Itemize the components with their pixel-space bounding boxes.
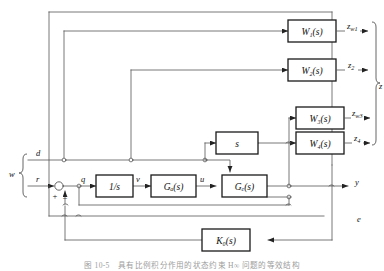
label-q: q [81, 174, 86, 184]
label-z-2: z2 [347, 60, 354, 71]
label-minus: − [62, 193, 68, 203]
block-ge-label: Gₑ(s) [235, 182, 254, 193]
label-r: r [36, 174, 40, 184]
block-integrator-label: 1/s [109, 182, 120, 192]
label-z-w1: zw1 [346, 21, 358, 32]
figure-container: W₁(s) W₂(s) W₃(s) W₄(s) s 1/s Gₐ(s) Gₑ(s… [0, 0, 384, 271]
block-w2-label: W₂(s) [301, 66, 322, 77]
label-v: v [136, 174, 140, 184]
summing-junction [55, 182, 63, 190]
label-z-group: z [378, 81, 383, 91]
figure-caption: 图 10-5 具有比例积分作用的状态约束 H∞ 问题的等效结构 [0, 260, 384, 271]
label-e: e [357, 214, 361, 224]
label-d: d [36, 148, 41, 158]
label-plus: + [52, 191, 58, 201]
label-y: y [354, 177, 359, 187]
junction-d-w2 [129, 158, 133, 162]
block-k0-label: K₀(s) [215, 236, 236, 247]
block-ga-label: Gₐ(s) [164, 182, 184, 193]
block-w3-label: W₃(s) [309, 114, 330, 125]
block-diagram: W₁(s) W₂(s) W₃(s) W₄(s) s 1/s Gₐ(s) Gₑ(s… [0, 0, 384, 271]
block-w1-label: W₁(s) [301, 27, 322, 38]
junction-d-w1 [62, 158, 66, 162]
wire-d-to-ge [205, 160, 230, 172]
label-u: u [200, 174, 204, 184]
label-w-group: w [9, 169, 15, 179]
block-differentiator-label: s [235, 139, 239, 149]
block-w4-label: W₄(s) [309, 139, 330, 150]
wire-hop-1 [63, 204, 68, 205]
label-z-4: z4 [353, 133, 360, 144]
output-labels: zw1 z2 zw3 z4 y e [346, 21, 363, 224]
brace-w [19, 154, 27, 197]
label-z-w3: zw3 [351, 108, 363, 119]
